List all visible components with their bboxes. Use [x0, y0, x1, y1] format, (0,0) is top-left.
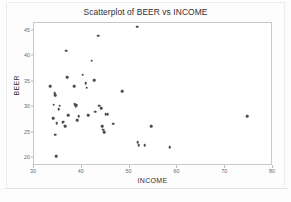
y-tick-label: 45 [16, 27, 30, 33]
x-tick-label: 80 [262, 168, 282, 174]
x-tick-label: 60 [166, 168, 186, 174]
x-tick-mark [176, 165, 177, 168]
chart-title: Scatterplot of BEER vs INCOME [0, 7, 291, 17]
x-tick-mark [272, 165, 273, 168]
x-tick-mark [129, 165, 130, 168]
x-axis-title: INCOME [33, 177, 272, 184]
y-tick-label: 30 [16, 103, 30, 109]
y-tick-mark [31, 106, 34, 107]
x-tick-mark [33, 165, 34, 168]
y-tick-mark [31, 29, 34, 30]
y-axis-title: BEER [13, 82, 20, 96]
x-tick-label: 50 [119, 168, 139, 174]
y-tick-mark [31, 157, 34, 158]
x-tick-label: 30 [23, 168, 43, 174]
plot-area-frame [33, 22, 272, 165]
x-tick-mark [224, 165, 225, 168]
y-tick-label: 40 [16, 52, 30, 58]
scatterplot-chart: Scatterplot of BEER vs INCOME 2025303540… [0, 0, 291, 202]
y-tick-label: 20 [16, 154, 30, 160]
y-tick-mark [31, 131, 34, 132]
x-tick-label: 40 [71, 168, 91, 174]
x-tick-label: 70 [214, 168, 234, 174]
x-tick-mark [81, 165, 82, 168]
y-tick-mark [31, 80, 34, 81]
y-tick-mark [31, 55, 34, 56]
y-tick-label: 25 [16, 129, 30, 135]
